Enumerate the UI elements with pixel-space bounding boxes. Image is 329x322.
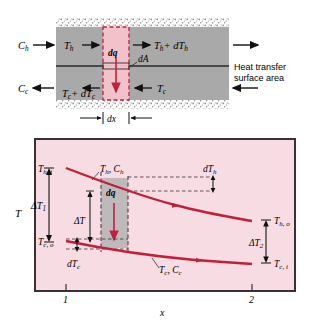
dq-label-schematic: dq	[108, 48, 118, 58]
dA-label: dA	[138, 54, 149, 64]
cold-capacity-label: Cc	[18, 83, 29, 96]
insulation-top	[56, 18, 229, 27]
cold-outlet-temp-label: Tc+ dTc	[62, 88, 96, 101]
x-axis-label: x	[159, 307, 165, 318]
schematic-panel: Ch Cc Th Th+ dTh Tc Tc+ dTc dq dA dx Hea…	[18, 18, 286, 124]
figure-svg: Ch Cc Th Th+ dTh Tc Tc+ dTc dq dA dx Hea…	[0, 0, 329, 322]
surface-area-label-line2: surface area	[234, 73, 284, 83]
surface-area-label-line1: Heat transfer	[234, 62, 286, 72]
hot-capacity-label: Ch	[18, 40, 29, 53]
dq-label-chart: dq	[106, 188, 116, 198]
y-axis-label: T	[15, 207, 22, 219]
chart-panel: 1 2 x T dq ΔT1 ΔT	[15, 139, 295, 318]
xtick-label-2: 2	[249, 294, 254, 305]
hot-outlet-temp-label: Th+ dTh	[154, 40, 188, 53]
insulation-bottom	[56, 100, 229, 109]
deltaT-local-label: ΔT	[73, 216, 86, 226]
figure-root: Ch Cc Th Th+ dTh Tc Tc+ dTc dq dA dx Hea…	[0, 0, 329, 322]
dx-label: dx	[107, 114, 117, 124]
xtick-label-1: 1	[63, 294, 68, 305]
